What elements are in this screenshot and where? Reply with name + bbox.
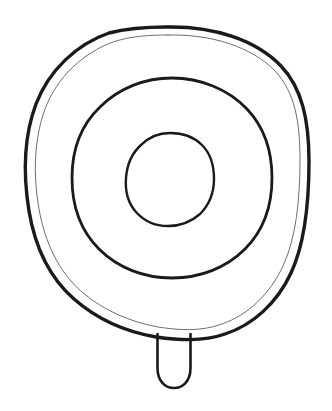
background-plate	[0, 0, 332, 411]
line-art-drawing: Concentric ring disc with stem Black and…	[0, 0, 332, 411]
figure-canvas: Concentric ring disc with stem Black and…	[0, 0, 332, 411]
